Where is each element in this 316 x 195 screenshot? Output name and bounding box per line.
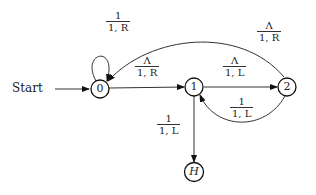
write-move: 1, L [230, 107, 253, 119]
read-symbol: Λ [223, 55, 246, 66]
read-symbol: Λ [257, 20, 281, 31]
write-move: 1, R [135, 66, 159, 78]
start-label: Start [12, 81, 43, 95]
edge-0-1 [109, 87, 184, 88]
edge-0-0 [92, 56, 109, 81]
state-1-label: 1 [185, 78, 203, 96]
write-move: 1, L [157, 124, 180, 136]
write-move: 1, R [257, 31, 281, 43]
edge-label-1-2: Λ 1, L [223, 55, 246, 78]
read-symbol: Λ [135, 55, 159, 66]
edge-label-0-1: Λ 1, R [135, 55, 159, 78]
state-2-label: 2 [278, 78, 296, 96]
write-move: 1, R [106, 21, 130, 33]
write-move: 1, L [223, 66, 246, 78]
read-symbol: 1 [157, 113, 180, 124]
read-symbol: 1 [230, 96, 253, 107]
read-symbol: 1 [106, 10, 130, 21]
edge-label-0-0: 1 1, R [106, 10, 130, 33]
state-H-label: H [185, 163, 203, 181]
edge-label-1-H: 1 1, L [157, 113, 180, 136]
edge-label-2-1: 1 1, L [230, 96, 253, 119]
edge-label-2-0: Λ 1, R [257, 20, 281, 43]
state-0-label: 0 [91, 80, 109, 98]
